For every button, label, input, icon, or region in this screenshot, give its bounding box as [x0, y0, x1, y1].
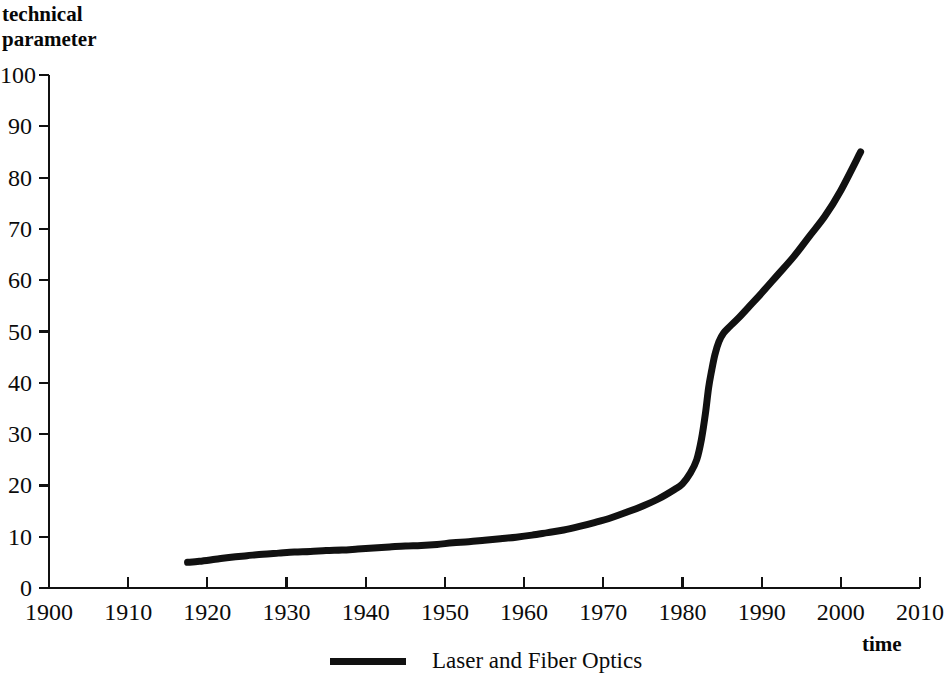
y-axis-tick-label: 90: [0, 114, 32, 138]
legend-label-laser-and-fiber-optics: Laser and Fiber Optics: [432, 648, 642, 674]
x-axis-tick-label: 1980: [658, 600, 706, 624]
y-axis-ticks: [39, 75, 49, 588]
y-axis-tick-label: 100: [0, 63, 32, 87]
x-axis-ticks: [49, 577, 920, 588]
x-axis-tick-label: 2010: [896, 600, 944, 624]
y-axis-tick-label: 0: [0, 576, 32, 600]
chart-legend: Laser and Fiber Optics: [330, 648, 642, 674]
x-axis-tick-label: 1960: [500, 600, 548, 624]
y-axis-title: technical parameter: [2, 2, 162, 52]
x-axis-tick-label: 1900: [25, 600, 73, 624]
y-axis-tick-label: 30: [0, 422, 32, 446]
x-axis-tick-label: 1930: [263, 600, 311, 624]
y-axis-tick-label: 80: [0, 166, 32, 190]
x-axis-tick-label: 1950: [421, 600, 469, 624]
axes-group: [39, 75, 920, 588]
y-axis-tick-label: 70: [0, 217, 32, 241]
chart-container: technical parameter time 010203040506070…: [0, 0, 950, 674]
x-axis-tick-label: 1910: [104, 600, 152, 624]
y-axis-tick-label: 10: [0, 525, 32, 549]
x-axis-tick-label: 2000: [817, 600, 865, 624]
x-axis-tick-label: 1920: [183, 600, 231, 624]
x-axis-title: time: [862, 632, 902, 657]
y-axis-tick-label: 20: [0, 473, 32, 497]
y-axis-tick-label: 60: [0, 268, 32, 292]
legend-line-swatch: [330, 658, 406, 665]
x-axis-tick-label: 1940: [342, 600, 390, 624]
y-axis-tick-label: 50: [0, 320, 32, 344]
x-axis-tick-label: 1970: [579, 600, 627, 624]
data-line-laser-and-fiber-optics: [188, 152, 861, 562]
plot-area: [0, 0, 950, 674]
x-axis-tick-label: 1990: [738, 600, 786, 624]
data-series-group: [188, 152, 861, 562]
y-axis-tick-label: 40: [0, 371, 32, 395]
